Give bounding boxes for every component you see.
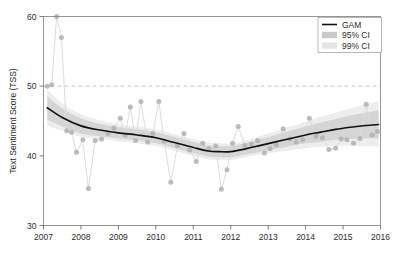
data-point [307, 116, 312, 121]
data-point [194, 159, 199, 164]
data-point [230, 141, 235, 146]
data-point [200, 141, 205, 146]
data-point [213, 144, 218, 149]
legend-band-swatch [322, 42, 337, 48]
data-point [294, 139, 299, 144]
y-axis-title: Text Sentiment Score (TSS) [8, 68, 18, 174]
chart-container: 30405060 2007200820092010201120122013201… [0, 0, 404, 257]
data-point [156, 99, 161, 104]
data-point [314, 134, 319, 139]
y-axis-tick-label: 40 [27, 151, 37, 161]
data-point [133, 138, 138, 143]
data-point [118, 116, 123, 121]
legend: GAM95% CI99% CI [318, 18, 382, 53]
data-point [168, 180, 173, 185]
x-axis-tick-label: 2007 [34, 232, 53, 242]
data-point [375, 129, 380, 134]
data-point [99, 137, 104, 142]
x-axis: 2007200820092010201120122013201420152016 [34, 226, 390, 242]
y-axis: 30405060 [27, 12, 43, 231]
data-point [93, 138, 98, 143]
x-axis-tick-label: 2014 [296, 232, 315, 242]
x-axis-tick-label: 2015 [334, 232, 353, 242]
legend-label: 99% CI [342, 41, 370, 51]
legend-label: 95% CI [342, 30, 370, 40]
legend-label: GAM [342, 20, 361, 30]
data-point [86, 186, 91, 191]
x-axis-tick-label: 2008 [71, 232, 90, 242]
data-point [236, 124, 241, 129]
data-point [326, 147, 331, 152]
data-point [300, 137, 305, 142]
data-point [242, 143, 247, 148]
data-point [128, 105, 133, 110]
data-point [351, 141, 356, 146]
data-point [74, 150, 79, 155]
data-point [320, 135, 325, 140]
data-point [268, 146, 273, 151]
sentiment-chart: 30405060 2007200820092010201120122013201… [0, 0, 404, 257]
data-point [80, 137, 85, 142]
data-point [333, 146, 338, 151]
data-point [138, 99, 143, 104]
data-point [357, 136, 362, 141]
x-axis-tick-label: 2010 [146, 232, 165, 242]
y-axis-tick-label: 50 [27, 81, 37, 91]
data-point [49, 82, 54, 87]
data-point [219, 187, 224, 192]
legend-band-swatch [322, 32, 337, 38]
data-point [111, 125, 116, 130]
y-axis-title-group: Text Sentiment Score (TSS) [8, 68, 18, 174]
y-axis-tick-label: 60 [27, 12, 37, 22]
data-point [262, 151, 267, 156]
data-point [255, 138, 260, 143]
data-point [45, 84, 50, 89]
data-point [224, 167, 229, 172]
data-point [344, 137, 349, 142]
x-axis-tick-label: 2016 [371, 232, 390, 242]
data-point [145, 139, 150, 144]
data-point [281, 126, 286, 131]
x-axis-tick-label: 2009 [109, 232, 128, 242]
x-axis-tick-label: 2012 [221, 232, 240, 242]
data-point [181, 131, 186, 136]
data-point [249, 141, 254, 146]
data-point [59, 35, 64, 40]
data-point [150, 131, 155, 136]
y-axis-tick-label: 30 [27, 221, 37, 231]
data-point [187, 148, 192, 153]
x-axis-tick-label: 2013 [259, 232, 278, 242]
data-point [370, 132, 375, 137]
data-point [64, 128, 69, 133]
data-point [339, 137, 344, 142]
data-point [364, 102, 369, 107]
data-point [69, 130, 74, 135]
x-axis-tick-label: 2011 [184, 232, 203, 242]
